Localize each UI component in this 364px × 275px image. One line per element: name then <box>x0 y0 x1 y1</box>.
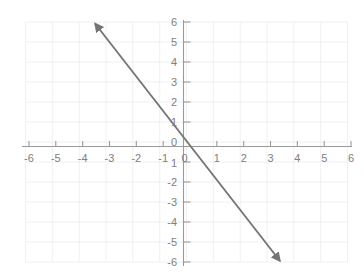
x-tick-label-6: 6 <box>340 152 362 164</box>
x-tick-label-2: 2 <box>233 152 255 164</box>
plot-area <box>0 0 364 275</box>
x-tick-label-4: 4 <box>286 152 308 164</box>
x-tick-label-0: 0 <box>174 152 196 164</box>
x-tick-label-1: 1 <box>206 152 228 164</box>
x-tick-label-neg2: -2 <box>125 152 147 164</box>
x-tick-label-5: 5 <box>313 152 335 164</box>
x-tick-label-neg1: -1 <box>152 152 174 164</box>
y-tick-label-neg6: -6 <box>160 256 177 268</box>
y-tick-label-neg2: -2 <box>160 176 177 188</box>
y-tick-label-5: 5 <box>160 36 177 48</box>
x-tick-label-neg6: -6 <box>18 152 40 164</box>
x-tick-label-neg5: -5 <box>45 152 67 164</box>
y-tick-label-0: 0 <box>160 136 177 148</box>
x-tick-label-3: 3 <box>260 152 282 164</box>
y-tick-label-neg3: -3 <box>160 196 177 208</box>
y-tick-label-6: 6 <box>160 16 177 28</box>
y-tick-label-neg5: -5 <box>160 236 177 248</box>
coordinate-graph: 6 5 4 3 2 1 0 1 -2 -3 -4 -5 -6 -6 -5 -4 … <box>0 0 364 275</box>
y-tick-label-1: 1 <box>160 116 177 128</box>
y-tick-label-neg4: -4 <box>160 216 177 228</box>
x-tick-label-neg4: -4 <box>72 152 94 164</box>
y-tick-label-4: 4 <box>160 56 177 68</box>
y-tick-label-3: 3 <box>160 76 177 88</box>
x-tick-label-neg3: -3 <box>99 152 121 164</box>
y-tick-label-2: 2 <box>160 96 177 108</box>
